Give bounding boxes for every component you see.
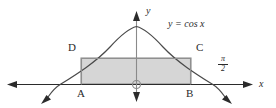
cosine-rectangle-figure: y x y = cos x π 2 D C A B	[0, 0, 276, 108]
tick-label-denominator: 2	[218, 65, 228, 73]
curve-arrow-left	[41, 95, 51, 104]
figure-canvas	[0, 0, 276, 108]
x-axis-label: x	[259, 79, 263, 89]
x-axis-arrow-left	[7, 81, 17, 88]
tick-label-numerator: π	[218, 55, 228, 63]
curve-equation-label: y = cos x	[168, 19, 204, 29]
x-axis-arrow-right	[243, 81, 253, 88]
y-axis-label: y	[146, 6, 150, 16]
y-axis-arrow-up	[133, 11, 140, 21]
vertex-label-b: B	[186, 88, 193, 99]
vertex-label-c: C	[196, 42, 203, 53]
y-axis-arrow-down	[133, 92, 140, 102]
vertex-label-d: D	[68, 42, 76, 53]
curve-arrow-right	[222, 95, 232, 104]
tick-label-pi-over-two: π 2	[218, 55, 228, 74]
vertex-label-a: A	[77, 88, 85, 99]
